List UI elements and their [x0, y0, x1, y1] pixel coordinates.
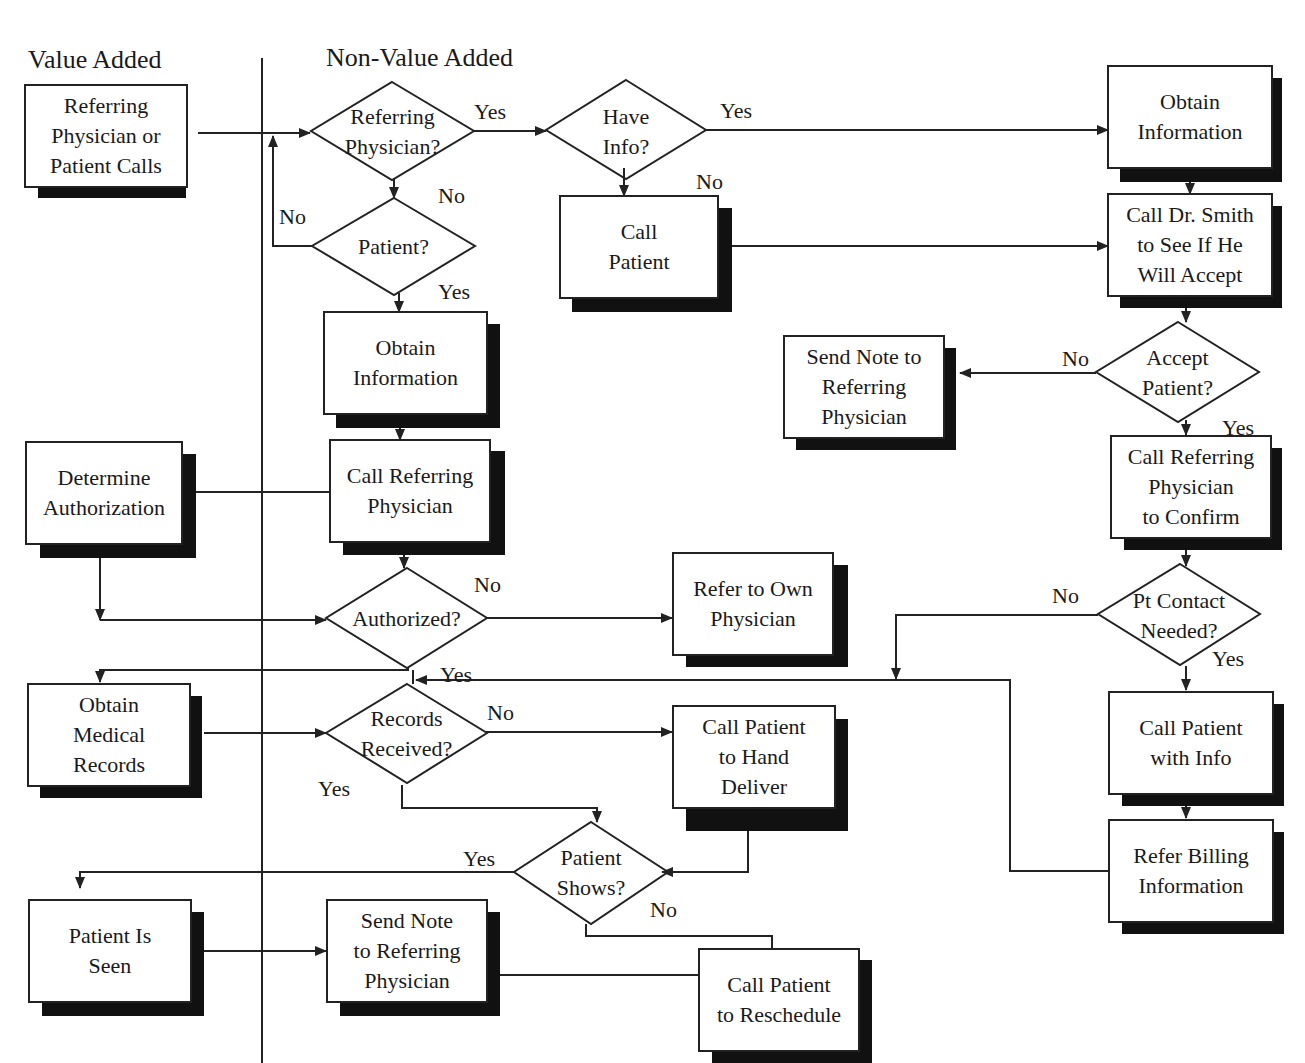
process-call-referring-physician[interactable]: Call Referring Physician: [329, 439, 491, 543]
edge-label-ptcontact-no: No: [1052, 584, 1079, 608]
decision-have-info[interactable]: Have Info?: [546, 102, 706, 162]
decision-patient-shows[interactable]: Patient Shows?: [514, 843, 668, 903]
edge-label-refphys-no: No: [438, 184, 465, 208]
edge-label-shows-no: No: [650, 898, 677, 922]
edge-label-accept-no: No: [1062, 347, 1089, 371]
process-call-patient[interactable]: Call Patient: [559, 195, 719, 299]
process-call-referring-confirm[interactable]: Call Referring Physician to Confirm: [1110, 435, 1272, 539]
process-send-note-right[interactable]: Send Note to Referring Physician: [783, 335, 945, 439]
process-referring-calls[interactable]: Referring Physician or Patient Calls: [24, 84, 188, 188]
process-patient-is-seen[interactable]: Patient Is Seen: [28, 899, 192, 1003]
process-send-note-bottom[interactable]: Send Note to Referring Physician: [326, 899, 488, 1003]
flowchart-canvas: Value Added Non-Value Added Referring Ph…: [0, 0, 1305, 1063]
decision-accept-patient[interactable]: Accept Patient?: [1096, 343, 1259, 403]
edge-label-authorized-no: No: [474, 573, 501, 597]
edge-label-authorized-yes: Yes: [440, 663, 472, 687]
process-refer-billing-information[interactable]: Refer Billing Information: [1108, 819, 1274, 923]
process-obtain-medical-records[interactable]: Obtain Medical Records: [27, 683, 191, 787]
edge-label-accept-yes: Yes: [1222, 416, 1254, 440]
process-call-patient-with-info[interactable]: Call Patient with Info: [1108, 691, 1274, 795]
process-call-patient-hand-deliver[interactable]: Call Patient to Hand Deliver: [672, 705, 836, 809]
decision-records-received[interactable]: Records Received?: [326, 704, 487, 764]
edge-label-haveinfo-yes: Yes: [720, 99, 752, 123]
edge-label-haveinfo-no: No: [696, 170, 723, 194]
decision-authorized[interactable]: Authorized?: [326, 604, 487, 634]
edge-label-patient-no: No: [279, 205, 306, 229]
decision-pt-contact-needed[interactable]: Pt Contact Needed?: [1098, 586, 1260, 646]
edge-label-records-no: No: [487, 701, 514, 725]
edge-label-patient-yes: Yes: [438, 280, 470, 304]
edge-label-records-yes: Yes: [318, 777, 350, 801]
edge-label-shows-yes: Yes: [463, 847, 495, 871]
decision-referring-physician[interactable]: Referring Physician?: [311, 102, 474, 162]
edge-label-ptcontact-yes: Yes: [1212, 647, 1244, 671]
process-call-dr-smith[interactable]: Call Dr. Smith to See If He Will Accept: [1107, 193, 1273, 297]
edge-label-refphys-yes: Yes: [474, 100, 506, 124]
process-call-patient-reschedule[interactable]: Call Patient to Reschedule: [698, 948, 860, 1052]
process-obtain-info-right[interactable]: Obtain Information: [1107, 65, 1273, 169]
process-determine-authorization[interactable]: Determine Authorization: [25, 441, 183, 545]
decision-patient[interactable]: Patient?: [312, 232, 475, 262]
process-refer-own-physician[interactable]: Refer to Own Physician: [672, 552, 834, 656]
process-obtain-info-center[interactable]: Obtain Information: [323, 311, 488, 415]
